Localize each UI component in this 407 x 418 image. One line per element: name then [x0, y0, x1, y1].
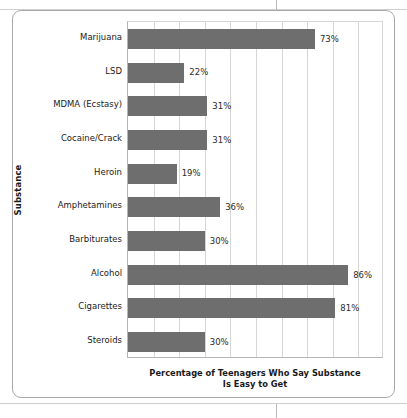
bar-alcohol: [128, 265, 348, 285]
bar-steroids: [128, 332, 205, 352]
category-label-cigarettes: Cigarettes: [20, 302, 122, 311]
bar-value-label: 30%: [210, 237, 229, 246]
x-axis-title: Percentage of Teenagers Who Say Substanc…: [127, 368, 383, 390]
bar-value-label: 31%: [212, 102, 231, 111]
category-label-marijuana: Marijuana: [20, 33, 122, 42]
bar-heroin: [128, 164, 177, 184]
category-label-amphetamines: Amphetamines: [20, 201, 122, 210]
bar-row: 36%: [128, 197, 382, 217]
bar-row: 30%: [128, 332, 382, 352]
x-axis-title-line-2: Is Easy to Get: [127, 379, 383, 390]
bar-chart-figure: Substance MarijuanaLSDMDMA (Ecstasy)Coca…: [0, 0, 407, 418]
category-label-mdma-ecstasy: MDMA (Ecstasy): [20, 100, 122, 109]
plot-area: 73%22%31%31%19%36%30%86%81%30%: [127, 21, 383, 358]
bar-value-label: 22%: [189, 68, 208, 77]
bar-value-label: 86%: [353, 271, 372, 280]
bar-row: 22%: [128, 63, 382, 83]
x-axis-title-line-1: Percentage of Teenagers Who Say Substanc…: [127, 368, 383, 379]
y-axis-category-labels: MarijuanaLSDMDMA (Ecstasy)Cocaine/CrackH…: [20, 21, 122, 358]
category-label-lsd: LSD: [20, 67, 122, 76]
category-label-heroin: Heroin: [20, 168, 122, 177]
bar-barbiturates: [128, 231, 205, 251]
bar-value-label: 36%: [225, 203, 244, 212]
bar-row: 19%: [128, 164, 382, 184]
bar-row: 30%: [128, 231, 382, 251]
category-label-alcohol: Alcohol: [20, 269, 122, 278]
bar-value-label: 19%: [182, 169, 201, 178]
bar-cocaine-crack: [128, 130, 207, 150]
bar-row: 73%: [128, 29, 382, 49]
bar-cigarettes: [128, 298, 335, 318]
bar-value-label: 30%: [210, 338, 229, 347]
bars-layer: 73%22%31%31%19%36%30%86%81%30%: [128, 22, 382, 357]
bar-value-label: 73%: [320, 35, 339, 44]
bar-amphetamines: [128, 197, 220, 217]
bar-marijuana: [128, 29, 315, 49]
bar-mdma-ecstasy: [128, 96, 207, 116]
bar-row: 31%: [128, 96, 382, 116]
category-label-cocaine-crack: Cocaine/Crack: [20, 134, 122, 143]
bar-row: 86%: [128, 265, 382, 285]
bar-lsd: [128, 63, 184, 83]
bar-value-label: 31%: [212, 136, 231, 145]
bar-row: 31%: [128, 130, 382, 150]
category-label-barbiturates: Barbiturates: [20, 235, 122, 244]
bar-value-label: 81%: [340, 304, 359, 313]
bar-row: 81%: [128, 298, 382, 318]
category-label-steroids: Steroids: [20, 336, 122, 345]
